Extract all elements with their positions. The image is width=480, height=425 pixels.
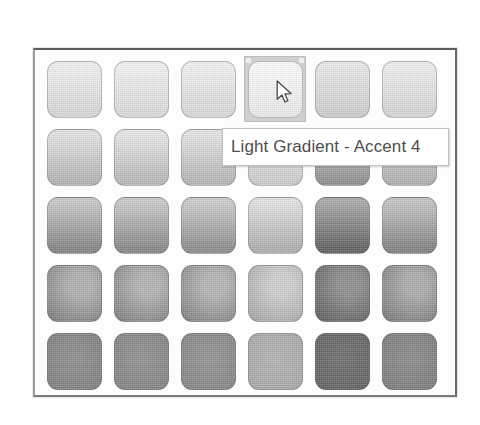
swatch-cell-3[interactable]	[244, 56, 306, 122]
swatch-chip-19	[114, 265, 169, 322]
swatch-chip-2	[181, 61, 236, 118]
swatch-cell-29[interactable]	[378, 328, 440, 394]
swatch-chip-23	[382, 265, 437, 322]
swatch-cell-24[interactable]	[43, 328, 105, 394]
swatch-cell-23[interactable]	[378, 260, 440, 326]
swatch-cell-17[interactable]	[378, 192, 440, 258]
swatch-chip-26	[181, 333, 236, 390]
swatch-chip-29	[382, 333, 437, 390]
swatch-chip-12	[47, 197, 102, 254]
swatch-chip-4	[315, 61, 370, 118]
swatch-chip-17	[382, 197, 437, 254]
swatch-grid	[43, 56, 448, 394]
swatch-cell-12[interactable]	[43, 192, 105, 258]
swatch-cell-0[interactable]	[43, 56, 105, 122]
swatch-cell-26[interactable]	[177, 328, 239, 394]
swatch-cell-27[interactable]	[244, 328, 306, 394]
swatch-chip-7	[114, 129, 169, 186]
swatch-cell-15[interactable]	[244, 192, 306, 258]
swatch-chip-0	[47, 61, 102, 118]
swatch-chip-13	[114, 197, 169, 254]
swatch-cell-14[interactable]	[177, 192, 239, 258]
swatch-chip-15	[248, 197, 303, 254]
gallery-inner-surface	[35, 50, 455, 395]
swatch-cell-5[interactable]	[378, 56, 440, 122]
swatch-chip-20	[181, 265, 236, 322]
swatch-chip-3	[248, 61, 303, 118]
swatch-chip-5	[382, 61, 437, 118]
swatch-chip-25	[114, 333, 169, 390]
swatch-chip-6	[47, 129, 102, 186]
swatch-cell-2[interactable]	[177, 56, 239, 122]
swatch-cell-28[interactable]	[311, 328, 373, 394]
tooltip-label: Light Gradient - Accent 4	[223, 137, 421, 157]
swatch-cell-20[interactable]	[177, 260, 239, 326]
swatch-chip-22	[315, 265, 370, 322]
swatch-chip-16	[315, 197, 370, 254]
swatch-chip-21	[248, 265, 303, 322]
swatch-cell-19[interactable]	[110, 260, 172, 326]
swatch-tooltip: Light Gradient - Accent 4	[222, 128, 449, 166]
swatch-chip-18	[47, 265, 102, 322]
swatch-cell-21[interactable]	[244, 260, 306, 326]
swatch-cell-18[interactable]	[43, 260, 105, 326]
swatch-cell-1[interactable]	[110, 56, 172, 122]
swatch-cell-22[interactable]	[311, 260, 373, 326]
swatch-cell-25[interactable]	[110, 328, 172, 394]
gradient-gallery-panel	[33, 48, 457, 397]
swatch-cell-6[interactable]	[43, 124, 105, 190]
swatch-chip-28	[315, 333, 370, 390]
swatch-chip-1	[114, 61, 169, 118]
swatch-chip-14	[181, 197, 236, 254]
swatch-cell-7[interactable]	[110, 124, 172, 190]
swatch-chip-24	[47, 333, 102, 390]
swatch-chip-27	[248, 333, 303, 390]
swatch-cell-13[interactable]	[110, 192, 172, 258]
swatch-cell-16[interactable]	[311, 192, 373, 258]
swatch-cell-4[interactable]	[311, 56, 373, 122]
